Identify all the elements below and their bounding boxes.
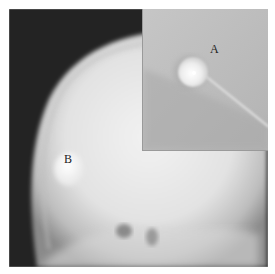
inset-closeup: A (142, 9, 268, 151)
label-a: A (210, 43, 219, 55)
label-b: B (64, 153, 72, 165)
inset-image (143, 9, 268, 150)
xray-figure: A B (9, 9, 268, 267)
